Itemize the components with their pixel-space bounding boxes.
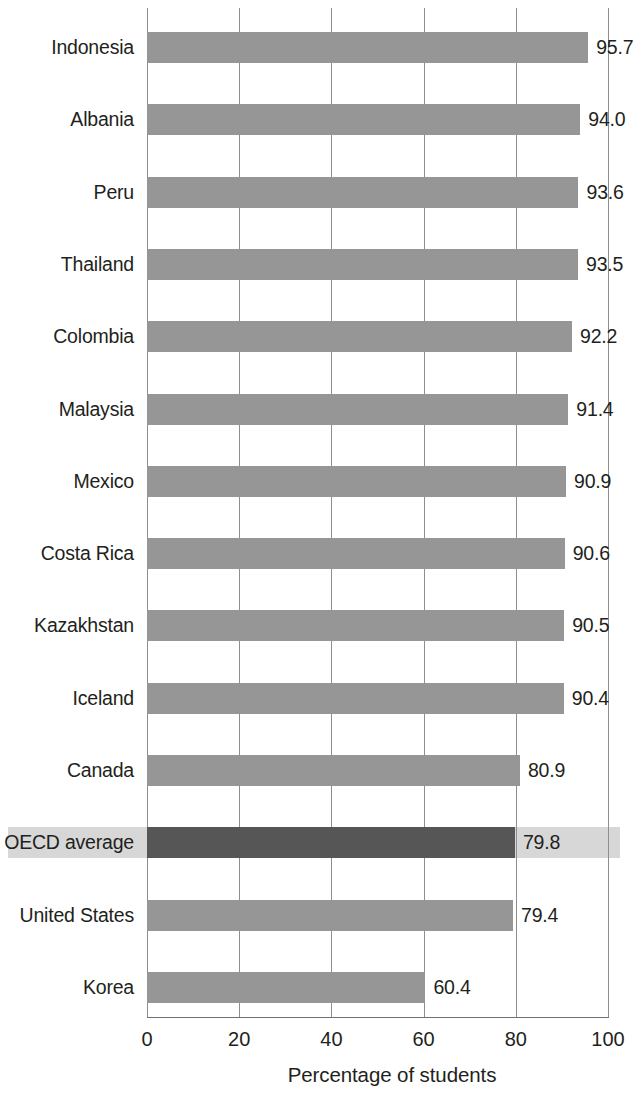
bar-row: Peru93.6 xyxy=(0,177,637,208)
gridline-0 xyxy=(147,8,148,1018)
bar-value-label: 90.5 xyxy=(572,610,609,641)
x-tick-label: 20 xyxy=(228,1026,250,1052)
bar-row: Albania94.0 xyxy=(0,104,637,135)
bar-row: OECD average79.8 xyxy=(0,827,637,858)
x-tick-label: 0 xyxy=(141,1026,152,1052)
bar xyxy=(147,249,578,280)
bar-row: Colombia92.2 xyxy=(0,321,637,352)
gridline-60 xyxy=(424,8,425,1018)
bar xyxy=(147,827,515,858)
bar-row: Thailand93.5 xyxy=(0,249,637,280)
gridline-100 xyxy=(608,8,609,1018)
bar-value-label: 94.0 xyxy=(588,104,625,135)
gridline-20 xyxy=(239,8,240,1018)
bar-row: Mexico90.9 xyxy=(0,466,637,497)
category-label: Korea xyxy=(83,972,134,1003)
bar xyxy=(147,394,568,425)
bar-value-label: 92.2 xyxy=(580,321,617,352)
bar-row: Korea60.4 xyxy=(0,972,637,1003)
bar xyxy=(147,466,566,497)
bar-row: Canada80.9 xyxy=(0,755,637,786)
bar-value-label: 93.5 xyxy=(586,249,623,280)
category-label: OECD average xyxy=(4,827,134,858)
bar-value-label: 80.9 xyxy=(528,755,565,786)
category-label: Malaysia xyxy=(59,394,134,425)
bar-row: Costa Rica90.6 xyxy=(0,538,637,569)
bar-row: Iceland90.4 xyxy=(0,683,637,714)
bar xyxy=(147,755,520,786)
category-label: Indonesia xyxy=(51,32,134,63)
bar xyxy=(147,104,580,135)
category-label: Kazakhstan xyxy=(34,610,134,641)
x-axis-title: Percentage of students xyxy=(0,1062,637,1088)
bar xyxy=(147,538,565,569)
bar-value-label: 95.7 xyxy=(596,32,633,63)
bar-row: United States79.4 xyxy=(0,900,637,931)
category-label: Peru xyxy=(94,177,134,208)
bar-value-label: 90.6 xyxy=(573,538,610,569)
bar-value-label: 93.6 xyxy=(586,177,623,208)
category-label: Iceland xyxy=(73,683,134,714)
bar-value-label: 79.4 xyxy=(521,900,558,931)
gridline-40 xyxy=(331,8,332,1018)
bar-value-label: 90.9 xyxy=(574,466,611,497)
bar-row: Kazakhstan90.5 xyxy=(0,610,637,641)
bar xyxy=(147,900,513,931)
category-label: Mexico xyxy=(73,466,134,497)
bar xyxy=(147,683,564,714)
bar xyxy=(147,177,578,208)
bar-row: Indonesia95.7 xyxy=(0,32,637,63)
bar xyxy=(147,610,564,641)
x-axis-line xyxy=(147,1017,609,1018)
bar-chart: Indonesia95.7Albania94.0Peru93.6Thailand… xyxy=(0,0,637,1108)
bar-value-label: 91.4 xyxy=(576,394,613,425)
category-label: Thailand xyxy=(61,249,134,280)
bar xyxy=(147,32,588,63)
category-label: Colombia xyxy=(53,321,134,352)
category-label: United States xyxy=(20,900,134,931)
plot-area xyxy=(147,8,608,1018)
bar xyxy=(147,321,572,352)
bar xyxy=(147,972,425,1003)
bar-value-label: 79.8 xyxy=(523,827,560,858)
x-tick-label: 80 xyxy=(505,1026,527,1052)
x-tick-label: 40 xyxy=(320,1026,342,1052)
category-label: Costa Rica xyxy=(41,538,134,569)
bar-value-label: 60.4 xyxy=(433,972,470,1003)
x-tick-label: 100 xyxy=(591,1026,624,1052)
x-tick-label: 60 xyxy=(412,1026,434,1052)
bar-value-label: 90.4 xyxy=(572,683,609,714)
category-label: Canada xyxy=(67,755,134,786)
bar-row: Malaysia91.4 xyxy=(0,394,637,425)
category-label: Albania xyxy=(70,104,134,135)
gridline-80 xyxy=(516,8,517,1018)
